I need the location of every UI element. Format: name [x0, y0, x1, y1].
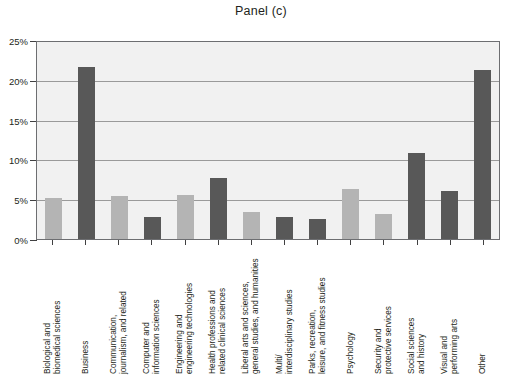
- bar[interactable]: [276, 217, 293, 239]
- x-axis-label: Business: [81, 246, 91, 374]
- bar[interactable]: [210, 178, 227, 239]
- x-tick-slot: [169, 240, 202, 245]
- bar[interactable]: [342, 189, 359, 239]
- bar-slot: [334, 42, 367, 239]
- x-label-slot: Business: [69, 246, 102, 376]
- x-tick-mark: [417, 240, 418, 245]
- plot-area: [36, 41, 500, 240]
- x-tick-slot: [268, 240, 301, 245]
- x-tick-mark: [85, 240, 86, 245]
- x-axis-label: Parks, recreation, leisure, and fitness …: [308, 246, 328, 374]
- bar-slot: [400, 42, 433, 239]
- x-tick-slot: [434, 240, 467, 245]
- x-axis-label: Computer and information sciences: [142, 246, 162, 374]
- x-tick-mark: [52, 240, 53, 245]
- x-axis-label: Visual and performing arts: [440, 246, 460, 374]
- x-axis-label-group: Biological and biomedical sciencesBusine…: [36, 246, 500, 376]
- bar-slot: [268, 42, 301, 239]
- x-tick-slot: [401, 240, 434, 245]
- x-axis-label: Security and protective services: [374, 246, 394, 374]
- y-tick-label: 0%: [14, 235, 28, 246]
- bar[interactable]: [144, 217, 161, 239]
- bar[interactable]: [309, 219, 326, 239]
- x-tick-mark: [383, 240, 384, 245]
- x-tick-mark: [118, 240, 119, 245]
- x-tick-slot: [301, 240, 334, 245]
- bar[interactable]: [441, 191, 458, 239]
- x-label-slot: Social sciences and history: [401, 246, 434, 376]
- x-tick-slot: [36, 240, 69, 245]
- x-tick-mark: [151, 240, 152, 245]
- bar[interactable]: [111, 196, 128, 239]
- chart-title: Panel (c): [0, 4, 522, 18]
- bar-slot: [433, 42, 466, 239]
- x-axis-label: Multi/ interdisciplinary studies: [275, 246, 295, 374]
- x-label-slot: Parks, recreation, leisure, and fitness …: [301, 246, 334, 376]
- x-label-slot: Liberal arts and sciences, general studi…: [235, 246, 268, 376]
- bar[interactable]: [375, 214, 392, 239]
- x-tick-mark: [317, 240, 318, 245]
- x-tick-slot: [467, 240, 500, 245]
- x-label-slot: Security and protective services: [367, 246, 400, 376]
- bar-chart-figure: Panel (c) 25% 20% 15% 10% 5% 0% Biologic…: [0, 0, 522, 379]
- bar-slot: [37, 42, 70, 239]
- x-axis-label: Liberal arts and sciences, general studi…: [241, 246, 261, 374]
- y-axis-label-group: 25% 20% 15% 10% 5% 0%: [0, 41, 32, 240]
- y-tick-label: 10%: [9, 155, 28, 166]
- x-label-slot: Visual and performing arts: [434, 246, 467, 376]
- x-axis-label: Health professions and related clinical …: [208, 246, 228, 374]
- x-label-slot: Engineering and engineering technologies: [169, 246, 202, 376]
- x-tick-mark: [450, 240, 451, 245]
- x-axis-label: Communication, journalism, and related: [109, 246, 129, 374]
- x-label-slot: Psychology: [334, 246, 367, 376]
- x-tick-slot: [202, 240, 235, 245]
- x-label-slot: Other: [467, 246, 500, 376]
- x-tick-mark: [483, 240, 484, 245]
- x-tick-mark: [251, 240, 252, 245]
- x-tick-mark: [350, 240, 351, 245]
- bar-slot: [235, 42, 268, 239]
- x-tick-slot: [69, 240, 102, 245]
- x-tick-mark: [218, 240, 219, 245]
- x-axis-label: Engineering and engineering technologies: [175, 246, 195, 374]
- x-axis-tick-marks: [36, 240, 500, 245]
- bar-slot: [103, 42, 136, 239]
- bar-slot: [301, 42, 334, 239]
- y-tick-label: 15%: [9, 115, 28, 126]
- bars-layer: [37, 42, 499, 239]
- bar-slot: [169, 42, 202, 239]
- x-axis-label: Psychology: [346, 246, 356, 374]
- bar[interactable]: [408, 153, 425, 239]
- x-tick-mark: [185, 240, 186, 245]
- x-tick-slot: [367, 240, 400, 245]
- bar-slot: [136, 42, 169, 239]
- bar-slot: [367, 42, 400, 239]
- x-label-slot: Computer and information sciences: [135, 246, 168, 376]
- bar-slot: [70, 42, 103, 239]
- x-label-slot: Multi/ interdisciplinary studies: [268, 246, 301, 376]
- x-tick-slot: [102, 240, 135, 245]
- x-tick-slot: [235, 240, 268, 245]
- bar[interactable]: [243, 212, 260, 239]
- bar[interactable]: [177, 195, 194, 239]
- bar[interactable]: [45, 198, 62, 239]
- bar[interactable]: [78, 67, 95, 239]
- bar-slot: [202, 42, 235, 239]
- x-axis-label: Biological and biomedical sciences: [43, 246, 63, 374]
- x-label-slot: Communication, journalism, and related: [102, 246, 135, 376]
- y-tick-label: 5%: [14, 195, 28, 206]
- bar-slot: [466, 42, 499, 239]
- y-tick-label: 25%: [9, 36, 28, 47]
- x-tick-mark: [284, 240, 285, 245]
- bar[interactable]: [474, 70, 491, 239]
- x-tick-slot: [135, 240, 168, 245]
- x-axis-label: Other: [478, 246, 488, 374]
- x-label-slot: Health professions and related clinical …: [202, 246, 235, 376]
- x-label-slot: Biological and biomedical sciences: [36, 246, 69, 376]
- x-axis-label: Social sciences and history: [407, 246, 427, 374]
- x-tick-slot: [334, 240, 367, 245]
- y-tick-label: 20%: [9, 75, 28, 86]
